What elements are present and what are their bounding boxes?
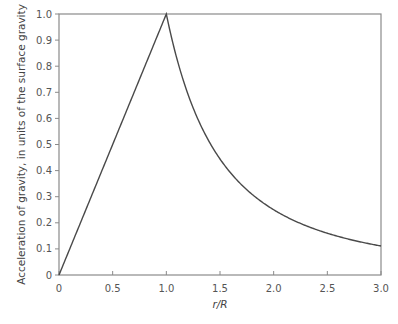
x-tick-label: 2.5 [319,283,335,294]
y-tick-label: 0.7 [36,87,52,98]
y-tick-label: 0.1 [36,243,52,254]
x-tick-label: 2.0 [266,283,282,294]
plot-area-border [59,14,381,275]
x-tick-label: 0.5 [105,283,121,294]
y-tick-label: 0.3 [36,191,52,202]
gravity-curve [59,14,381,275]
y-tick-label: 0.5 [36,139,52,150]
y-tick-label: 0.9 [36,35,52,46]
y-tick-label: 0.8 [36,61,52,72]
x-tick-label: 0 [56,283,62,294]
x-tick-label: 1.5 [212,283,228,294]
gravity-chart: 00.10.20.30.40.50.60.70.80.91.0 00.51.01… [0,0,398,324]
y-tick-label: 0.6 [36,113,52,124]
y-tick-label: 0.4 [36,165,52,176]
y-axis: 00.10.20.30.40.50.60.70.80.91.0 [36,9,59,281]
x-axis-title: r/R [212,298,227,310]
y-tick-label: 0.2 [36,217,52,228]
y-axis-title: Acceleration of gravity, in units of the… [15,4,27,285]
y-tick-label: 1.0 [36,9,52,20]
x-tick-label: 3.0 [373,283,389,294]
y-tick-label: 0 [46,270,52,281]
x-tick-label: 1.0 [158,283,174,294]
plot-frame [59,14,381,275]
